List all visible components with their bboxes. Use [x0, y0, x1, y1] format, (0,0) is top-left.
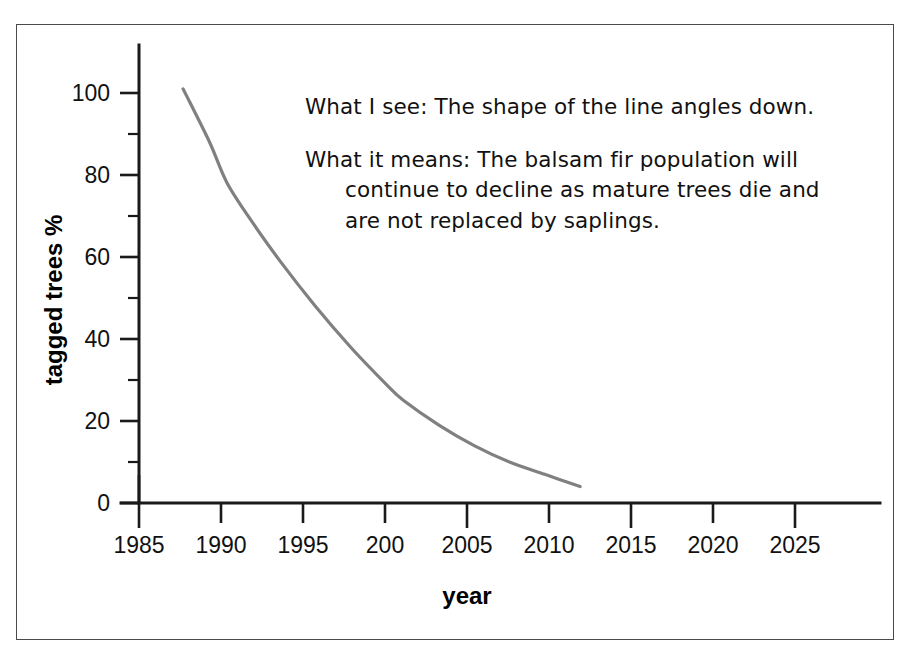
- x-tick-label-2010: 2010: [523, 532, 574, 558]
- y-tick-label-0: 0: [97, 490, 110, 516]
- annotation-what-it-means: What it means: The balsam fir population…: [305, 145, 875, 237]
- y-tick-label-20: 20: [84, 408, 110, 434]
- figure-container: 100 80 60 40 20 0 1985 1990 1995 200 200…: [0, 0, 907, 658]
- x-axis-title: year: [442, 582, 491, 609]
- x-tick-label-2015: 2015: [605, 532, 656, 558]
- y-tick-label-40: 40: [84, 326, 110, 352]
- y-axis-title: tagged trees %: [40, 215, 67, 386]
- y-tick-label-80: 80: [84, 162, 110, 188]
- annotation-what-i-see: What I see: The shape of the line angles…: [305, 92, 875, 123]
- annotation-means-line-2: continue to decline as mature trees die …: [305, 175, 875, 206]
- x-tick-label-2025: 2025: [769, 532, 820, 558]
- x-tick-label-2020: 2020: [687, 532, 738, 558]
- x-tick-label-2005: 2005: [441, 532, 492, 558]
- x-tick-label-1990: 1990: [195, 532, 246, 558]
- y-axis-minor-ticks: [128, 134, 139, 462]
- y-tick-label-60: 60: [84, 244, 110, 270]
- annotation-means-line-3: are not replaced by saplings.: [305, 206, 875, 237]
- x-tick-label-1995: 1995: [277, 532, 328, 558]
- x-tick-label-2000: 200: [366, 532, 404, 558]
- x-tick-label-1985: 1985: [113, 532, 164, 558]
- annotation-text-block: What I see: The shape of the line angles…: [305, 92, 875, 236]
- y-tick-label-100: 100: [72, 80, 110, 106]
- annotation-means-line-1: What it means: The balsam fir population…: [305, 147, 798, 172]
